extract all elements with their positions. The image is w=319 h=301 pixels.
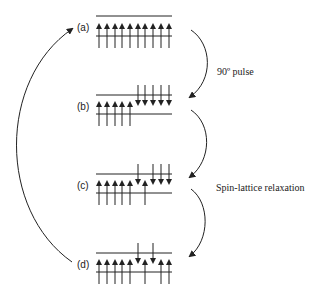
state-label-d: (d): [77, 259, 89, 270]
cycle-return-arrow-icon: [17, 29, 73, 262]
relaxation-label: Spin-lattice relaxation: [216, 182, 305, 193]
energy-levels: [96, 16, 172, 272]
energy-level-diagram: [0, 0, 319, 301]
pulse-label: 90º pulse: [217, 66, 254, 77]
state-label-c: (c): [77, 180, 89, 191]
state-label-b: (b): [77, 101, 89, 112]
relaxation-arrow-1-icon: [190, 110, 207, 177]
spin-arrows: [99, 26, 169, 284]
relaxation-arrow-2-icon: [190, 189, 205, 256]
transition-arrows: [17, 29, 208, 262]
state-label-a: (a): [77, 22, 89, 33]
pulse-arrow-icon: [190, 30, 207, 97]
